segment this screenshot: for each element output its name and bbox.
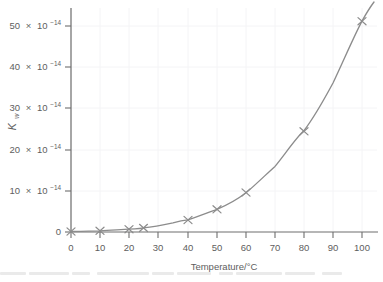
- xtick-label-20: 20: [124, 242, 135, 253]
- ytick-40-base: 10: [37, 61, 48, 72]
- fitted-curve: [71, 2, 374, 232]
- xtick-label-90: 90: [328, 242, 339, 253]
- svg-text:K w: K w: [2, 113, 20, 130]
- ytick-10-exponent: −14: [50, 184, 61, 191]
- kw-vs-temperature-chart: 0 10 × 10 −14 20 × 10 −14 30 × 10 −14 40: [0, 0, 383, 282]
- ytick-30-mantissa: 30: [10, 102, 21, 113]
- ytick-label-20: 20 × 10 −14: [10, 143, 62, 155]
- xtick-label-100: 100: [354, 242, 370, 253]
- ytick-label-0: 0: [56, 226, 61, 237]
- ytick-20-base: 10: [37, 144, 48, 155]
- ytick-30-exponent: −14: [50, 101, 61, 108]
- ytick-50-times: ×: [26, 20, 32, 31]
- page-text-smudge: [0, 266, 383, 282]
- y-axis-title-sub: w: [13, 113, 20, 119]
- x-axis-ticks: [71, 232, 362, 238]
- ytick-20-mantissa: 20: [10, 144, 21, 155]
- xtick-label-30: 30: [153, 242, 164, 253]
- ytick-40-exponent: −14: [50, 60, 61, 67]
- ytick-50-base: 10: [37, 20, 48, 31]
- ytick-label-50: 50 × 10 −14: [10, 19, 62, 31]
- ytick-label-10: 10 × 10 −14: [10, 184, 62, 196]
- ytick-20-times: ×: [26, 144, 32, 155]
- ytick-20-exponent: −14: [50, 143, 61, 150]
- ytick-label-40: 40 × 10 −14: [10, 60, 62, 72]
- xtick-label-80: 80: [299, 242, 310, 253]
- ytick-40-mantissa: 40: [10, 61, 21, 72]
- chart-figure: 0 10 × 10 −14 20 × 10 −14 30 × 10 −14 40: [0, 0, 383, 282]
- xtick-label-0: 0: [68, 242, 73, 253]
- ytick-label-30: 30 × 10 −14: [10, 101, 62, 113]
- y-axis-title-main: K: [6, 122, 18, 130]
- xtick-label-70: 70: [270, 242, 281, 253]
- y-axis-ticks: [65, 26, 71, 232]
- grid-lines: [71, 8, 377, 232]
- xtick-label-60: 60: [241, 242, 252, 253]
- ytick-30-times: ×: [26, 102, 32, 113]
- ytick-40-times: ×: [26, 61, 32, 72]
- ytick-10-mantissa: 10: [10, 185, 21, 196]
- xtick-label-50: 50: [212, 242, 223, 253]
- y-axis-title: K w: [2, 113, 20, 130]
- ytick-30-base: 10: [37, 102, 48, 113]
- ytick-50-exponent: −14: [50, 19, 61, 26]
- ytick-10-base: 10: [37, 185, 48, 196]
- ytick-10-times: ×: [26, 185, 32, 196]
- xtick-label-10: 10: [95, 242, 106, 253]
- x-axis-tick-labels: 0 10 20 30 40 50 60 70 80 90 100: [68, 242, 370, 253]
- xtick-label-40: 40: [183, 242, 194, 253]
- ytick-50-mantissa: 50: [10, 20, 21, 31]
